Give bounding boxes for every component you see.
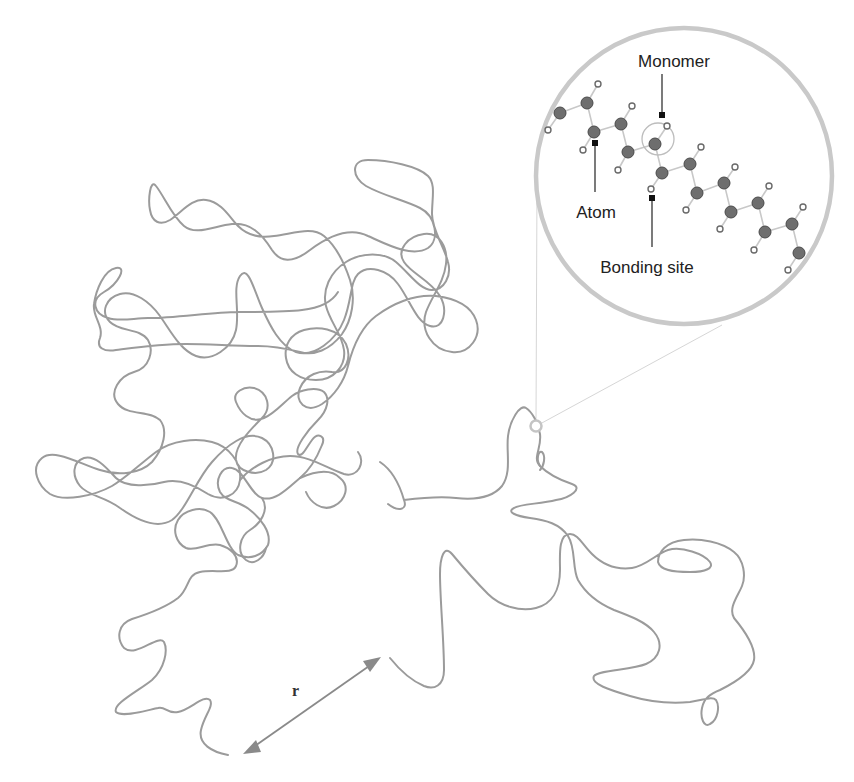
monomer-label: Monomer <box>638 52 710 71</box>
monomer-marker-icon <box>659 112 665 118</box>
zoom-connector-right <box>540 325 722 424</box>
bonding-site-marker-icon <box>649 195 655 201</box>
end-to-end-vector: r <box>243 657 381 754</box>
end-to-end-distance-label: r <box>292 682 299 699</box>
end-to-end-arrow-line <box>252 664 372 748</box>
arrow-head-end-icon <box>363 657 381 672</box>
zoom-connector-left <box>536 185 537 421</box>
magnifier-circle <box>536 28 832 324</box>
arrow-head-start-icon <box>243 740 261 754</box>
polymer-chain <box>36 160 477 755</box>
magnification-origin-ring <box>531 421 542 432</box>
atom-marker-icon <box>592 140 598 146</box>
polymer-chain-loop <box>538 452 544 470</box>
polymer-diagram: r <box>0 0 854 782</box>
atom-label: Atom <box>576 203 616 222</box>
magnifier: Monomer Atom Bonding site <box>536 28 832 324</box>
bonding-site-label: Bonding site <box>600 258 694 277</box>
